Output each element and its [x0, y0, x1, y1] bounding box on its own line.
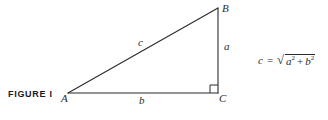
formula-equals: =: [267, 54, 273, 66]
radical-sign-icon: √: [277, 53, 284, 66]
right-angle-marker-icon: [210, 85, 218, 93]
formula-radical: √ a2+b2: [277, 54, 315, 69]
formula-term1-exponent: 2: [292, 54, 296, 62]
formula-term2-exponent: 2: [311, 54, 315, 62]
formula-radicand: a2+b2: [285, 54, 315, 69]
triangle-outline: [68, 8, 218, 93]
side-label-c: c: [138, 36, 143, 48]
figure-panel: FIGURE I A B C a b c c = √ a2+b2: [0, 0, 328, 120]
vertex-label-b: B: [222, 2, 229, 14]
figure-caption: FIGURE I: [8, 89, 53, 99]
side-label-b: b: [139, 94, 145, 106]
formula-lhs: c: [258, 54, 263, 66]
vertex-label-a: A: [61, 92, 68, 104]
side-label-a: a: [224, 40, 230, 52]
pythagorean-formula: c = √ a2+b2: [258, 54, 315, 69]
side-hypotenuse-line: [68, 8, 218, 93]
vertex-label-c: C: [219, 92, 226, 104]
formula-operator: +: [297, 55, 303, 67]
